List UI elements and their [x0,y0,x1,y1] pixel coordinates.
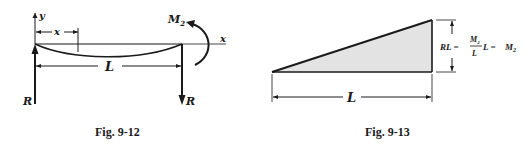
figure-caption-9-12: Fig. 9-12 [95,125,140,139]
right-reaction-label: R [185,95,195,108]
moment-arrow [192,24,209,65]
figure-9-12: y x L R R x M2 Fig. 9-12 [22,10,227,139]
equation-fraction-numerator: M2 [469,35,480,45]
equation-lhs: RL = [439,42,459,52]
y-axis-label: y [38,10,46,21]
diagram-canvas: y x L R R x M2 Fig. 9-12 [0,0,532,147]
x-dimension-label: x [53,26,61,37]
equation-rhs: M2 [504,42,516,53]
x-axis-label: x [219,33,227,44]
moment-label: M2 [167,13,185,28]
equation-fraction-denominator: L [471,49,477,58]
equation-after-fraction: L = [482,42,496,52]
deflected-beam-curve [35,44,182,57]
figure-9-13: L RL = M2 L L = M2 Fig. 9-13 [272,20,516,139]
figure-caption-9-13: Fig. 9-13 [365,125,410,139]
length-label: L [346,90,356,105]
left-reaction-label: R [22,95,32,108]
length-label: L [104,59,114,74]
